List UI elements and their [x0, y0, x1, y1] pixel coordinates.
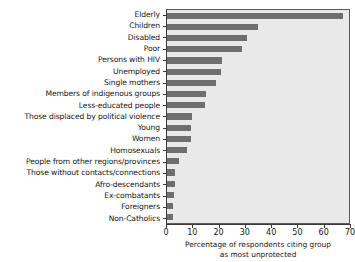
category-label: Ex-combatants [0, 190, 160, 201]
category-label: Disabled [0, 32, 160, 43]
bar-row [167, 212, 349, 223]
category-label: Foreigners [0, 201, 160, 212]
category-label: Single mothers [0, 77, 160, 88]
bar [167, 203, 173, 209]
bar-row [167, 189, 349, 200]
category-label: Unemployed [0, 66, 160, 77]
category-label: Homosexuals [0, 145, 160, 156]
value-ticklabel: 30 [240, 228, 250, 237]
bar [167, 181, 175, 187]
bar [167, 158, 179, 164]
category-label: Persons with HIV [0, 54, 160, 65]
bar-row [167, 10, 349, 21]
bar-row [167, 32, 349, 43]
value-ticklabel: 70 [345, 228, 355, 237]
bars-layer [167, 10, 349, 223]
bar [167, 136, 191, 142]
bar [167, 125, 191, 131]
bar-row [167, 122, 349, 133]
category-axis-labels: ElderlyChildrenDisabledPoorPersons with … [0, 9, 160, 224]
bar-row [167, 133, 349, 144]
bar-row [167, 55, 349, 66]
category-label: Afro-descendants [0, 179, 160, 190]
category-label: Non-Catholics [0, 213, 160, 224]
value-ticklabel: 40 [266, 228, 276, 237]
category-label: Elderly [0, 9, 160, 20]
bar [167, 91, 206, 97]
bar-row [167, 77, 349, 88]
value-ticklabel: 50 [292, 228, 302, 237]
bar-row [167, 167, 349, 178]
bar-row [167, 100, 349, 111]
bar [167, 46, 242, 52]
category-label: Children [0, 20, 160, 31]
bar-row [167, 44, 349, 55]
category-label: Those without contacts/connections [0, 167, 160, 178]
value-ticklabel: 60 [319, 228, 329, 237]
category-label: People from other regions/provinces [0, 156, 160, 167]
value-axis-ticklabels: 010203040506070 [166, 228, 350, 239]
bar [167, 169, 175, 175]
category-label: Women [0, 133, 160, 144]
bar [167, 102, 205, 108]
value-ticklabel: 0 [163, 228, 168, 237]
category-label: Poor [0, 43, 160, 54]
bar [167, 13, 343, 19]
plot-area [166, 9, 350, 224]
bar-row [167, 156, 349, 167]
bar-row [167, 111, 349, 122]
bar-row [167, 144, 349, 155]
category-label: Less-educated people [0, 100, 160, 111]
bar-row [167, 21, 349, 32]
bar [167, 214, 173, 220]
bar-row [167, 88, 349, 99]
bar-row [167, 66, 349, 77]
bar-row [167, 200, 349, 211]
category-label: Those displaced by political violence [0, 111, 160, 122]
value-ticklabel: 20 [213, 228, 223, 237]
value-axis-title-line-1: Percentage of respondents citing group [166, 240, 350, 250]
bar [167, 80, 216, 86]
category-label: Young [0, 122, 160, 133]
bar [167, 69, 221, 75]
value-axis-title: Percentage of respondents citing group a… [166, 240, 350, 260]
bar [167, 35, 247, 41]
bar [167, 57, 222, 63]
value-axis-title-line-2: as most unprotected [166, 250, 350, 260]
bar [167, 192, 174, 198]
bar [167, 113, 192, 119]
bar-row [167, 178, 349, 189]
bar [167, 147, 187, 153]
bar-chart-figure: ElderlyChildrenDisabledPoorPersons with … [0, 0, 355, 262]
category-label: Members of indigenous groups [0, 88, 160, 99]
value-ticklabel: 10 [187, 228, 197, 237]
bar [167, 24, 258, 30]
